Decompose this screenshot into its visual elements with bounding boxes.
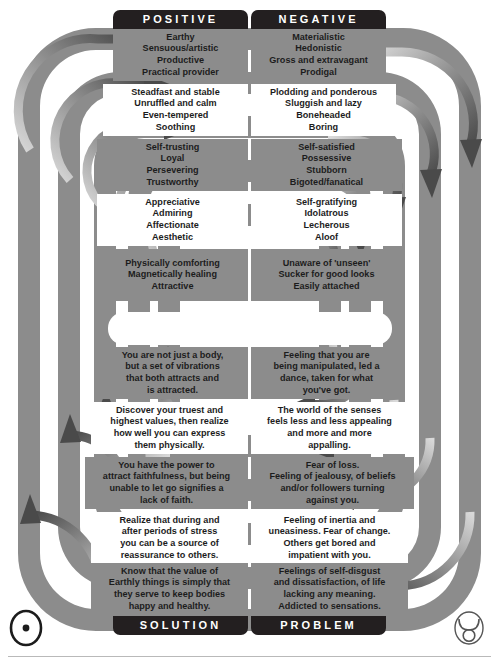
- cell-line: Bigoted/fanatical: [290, 177, 363, 189]
- cell-line: against you.: [306, 495, 359, 507]
- cell-positive-row-9: Realize that during andafter periods of …: [91, 512, 248, 564]
- cell-line: and more and more: [287, 428, 371, 440]
- cell-line: Even-tempered: [143, 110, 209, 122]
- cell-line: Others get bored and: [284, 538, 376, 550]
- cell-line: Aesthetic: [152, 232, 193, 244]
- cell-line: after periods of stress: [122, 526, 218, 538]
- cell-line: Sucker for good looks: [278, 269, 374, 281]
- cell-line: Sensuous/artistic: [143, 43, 219, 55]
- cell-line: Feeling that you are: [284, 350, 370, 362]
- cell-line: Steadfast and stable: [131, 87, 219, 99]
- cell-line: Aloof: [315, 232, 338, 244]
- cell-line: Boring: [309, 122, 338, 134]
- cell-line: Know that the value of: [121, 566, 218, 578]
- cell-positive-row-6: You are not just a body,but a set of vib…: [97, 347, 248, 399]
- cell-line: being manipulated, led a: [273, 361, 379, 373]
- cell-line: impatient with you.: [288, 550, 370, 562]
- cell-line: Boneheaded: [296, 110, 351, 122]
- cell-line: is attracted.: [147, 385, 198, 397]
- cell-line: Physically comforting: [125, 258, 220, 270]
- cell-line: You are not just a body,: [122, 350, 224, 362]
- cell-line: you've got.: [303, 385, 351, 397]
- cell-line: Feelings of self-disgust: [279, 566, 381, 578]
- cell-line: dance, taken for what: [280, 373, 373, 385]
- cell-line: Soothing: [156, 122, 195, 134]
- cell-line: Stubborn: [306, 165, 346, 177]
- cell-negative-row-4: Self-gratifyingIdolatrousLecherousAloof: [251, 194, 402, 246]
- cell-negative-row-3: Self-satisfiedPossessiveStubbornBigoted/…: [251, 139, 402, 191]
- cell-line: Attractive: [152, 281, 194, 293]
- cell-line: but a set of vibrations: [125, 361, 220, 373]
- cell-line: uneasiness. Fear of change.: [269, 526, 391, 538]
- cell-line: Materialistic: [292, 32, 345, 44]
- cell-line: Unruffled and calm: [134, 98, 216, 110]
- cell-line: and/or followers turning: [280, 483, 384, 495]
- cell-line: Self-trusting: [146, 142, 200, 154]
- header-positive: POSITIVE: [113, 10, 248, 29]
- cell-line: Productive: [157, 55, 204, 67]
- cell-line: Possessive: [302, 153, 352, 165]
- cell-line: you can be a source of: [120, 538, 219, 550]
- cell-line: feels less and less appealing: [267, 416, 392, 428]
- cell-line: and dissatisfaction, of life: [274, 577, 386, 589]
- diagram-canvas: POSITIVE NEGATIVE SOLUTION PROBLEM Earth…: [0, 0, 499, 668]
- cell-negative-row-7: The world of the sensesfeels less and le…: [251, 402, 408, 454]
- cell-negative-row-9: Feeling of inertia anduneasiness. Fear o…: [251, 512, 408, 564]
- cell-negative-row-6: Feeling that you arebeing manipulated, l…: [251, 347, 402, 399]
- taurus-icon: [449, 608, 489, 648]
- cell-positive-row-7: Discover your truest andhighest values, …: [91, 402, 248, 454]
- header-solution: SOLUTION: [113, 616, 248, 635]
- cell-negative-row-2: Plodding and ponderousSluggish and lazyB…: [251, 84, 396, 136]
- cell-line: Realize that during and: [119, 515, 219, 527]
- cell-line: Magnetically healing: [128, 269, 217, 281]
- cell-line: lacking any meaning.: [284, 589, 376, 601]
- cell-line: Lecherous: [304, 220, 350, 232]
- cell-line: Earthly things is simply that: [109, 577, 230, 589]
- cell-line: The world of the senses: [278, 405, 382, 417]
- cell-line: Loyal: [161, 153, 185, 165]
- sun-icon: [6, 608, 46, 648]
- cell-line: You have the power to: [118, 460, 214, 472]
- cell-line: Persevering: [146, 165, 198, 177]
- cell-line: Easily attached: [293, 281, 359, 293]
- cell-positive-row-5: Physically comfortingMagnetically healin…: [97, 249, 248, 301]
- content-columns: POSITIVE NEGATIVE SOLUTION PROBLEM Earth…: [0, 0, 499, 668]
- cell-line: Feeling of inertia and: [284, 515, 375, 527]
- cell-line: Discover your truest and: [116, 405, 223, 417]
- cell-line: Appreciative: [145, 197, 200, 209]
- cell-positive-row-3: Self-trustingLoyalPerseveringTrustworthy: [97, 139, 248, 191]
- cell-negative-row-1: MaterialisticHedonisticGross and extrava…: [251, 29, 386, 81]
- cell-negative-row-8: Fear of loss.Feeling of jealousy, of bel…: [251, 457, 414, 509]
- cell-positive-row-2: Steadfast and stableUnruffled and calmEv…: [103, 84, 248, 136]
- cell-line: highest values, then realize: [110, 416, 228, 428]
- cell-line: Affectionate: [146, 220, 199, 232]
- header-problem: PROBLEM: [251, 616, 386, 635]
- cell-line: they serve to keep bodies: [114, 589, 225, 601]
- cell-positive-row-1: EarthySensuous/artisticProductivePractic…: [113, 29, 248, 81]
- cell-line: Unaware of 'unseen': [283, 258, 371, 270]
- cell-line: Self-gratifying: [296, 197, 357, 209]
- cell-line: Earthy: [166, 32, 194, 44]
- cell-line: how well you can express: [114, 428, 226, 440]
- cell-line: happy and healthy.: [129, 601, 211, 613]
- cell-line: Sluggish and lazy: [285, 98, 362, 110]
- cell-line: Addicted to sensations.: [278, 601, 381, 613]
- cell-negative-row-10: Feelings of self-disgustand dissatisfact…: [251, 563, 408, 615]
- cell-line: Idolatrous: [305, 208, 349, 220]
- cell-line: Self-satisfied: [298, 142, 355, 154]
- cell-line: that both attracts and: [126, 373, 219, 385]
- cell-line: lack of faith.: [140, 495, 193, 507]
- cell-line: Prodigal: [300, 67, 336, 79]
- cell-line: Admiring: [153, 208, 193, 220]
- cell-line: Hedonistic: [295, 43, 342, 55]
- cell-line: unable to let go signifies a: [109, 483, 223, 495]
- cell-line: Gross and extravagant: [269, 55, 368, 67]
- cell-positive-row-4: AppreciativeAdmiringAffectionateAestheti…: [97, 194, 248, 246]
- cell-line: Practical provider: [142, 67, 219, 79]
- cell-line: them physically.: [134, 440, 204, 452]
- cell-negative-row-5: Unaware of 'unseen'Sucker for good looks…: [251, 249, 402, 301]
- cell-line: attract faithfulness, but being: [103, 471, 230, 483]
- header-negative: NEGATIVE: [251, 10, 386, 29]
- cell-line: Plodding and ponderous: [270, 87, 377, 99]
- cell-positive-row-8: You have the power toattract faithfulnes…: [85, 457, 248, 509]
